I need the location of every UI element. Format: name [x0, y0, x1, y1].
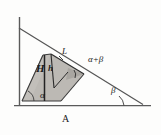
label-alpha: α	[40, 91, 45, 100]
angle-arc-beta	[119, 96, 124, 106]
label-L: L	[62, 47, 67, 56]
label-beta: β	[111, 86, 115, 95]
geometry-svg	[0, 0, 161, 135]
label-H: H	[36, 63, 45, 74]
label-h: h	[48, 64, 53, 73]
label-alpha-plus-beta: α+β	[88, 55, 103, 64]
label-A: A	[62, 114, 69, 124]
figure-canvas: H h L α+β α β A	[0, 0, 161, 135]
